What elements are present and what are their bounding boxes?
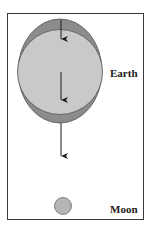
moon-label: Moon (110, 204, 138, 215)
tidal-diagram (0, 0, 155, 230)
earth-label: Earth (110, 68, 138, 79)
moon-body (55, 198, 72, 215)
earth-body (18, 30, 103, 115)
